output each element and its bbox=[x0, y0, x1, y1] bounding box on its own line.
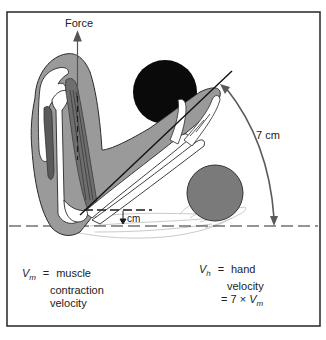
gray-ball-lower bbox=[187, 165, 243, 221]
vh-line-3-subscript: m bbox=[256, 299, 263, 308]
force-label: Force bbox=[65, 17, 93, 30]
seven-cm-label: 7 cm bbox=[256, 129, 280, 142]
vm-line-1: muscle bbox=[56, 267, 91, 279]
vh-line-3-prefix: = 7 × bbox=[221, 293, 249, 305]
vh-equals: = bbox=[214, 263, 228, 276]
elbow-lever-diagram: Force 7 cm cm Vm = muscle contraction ve… bbox=[0, 0, 326, 340]
one-cm-label: cm bbox=[127, 212, 140, 225]
vh-subscript: h bbox=[206, 269, 210, 278]
vm-line-3: velocity bbox=[22, 297, 104, 310]
vm-definition: Vm = muscle contraction velocity bbox=[22, 267, 104, 310]
vm-line-2: contraction bbox=[22, 284, 104, 297]
vh-line-2: velocity bbox=[199, 280, 264, 293]
vm-subscript: m bbox=[29, 273, 36, 282]
vm-equals: = bbox=[39, 267, 53, 280]
vh-definition: Vh = hand velocity = 7 × Vm bbox=[199, 263, 264, 310]
vh-line-1: hand bbox=[231, 263, 255, 275]
